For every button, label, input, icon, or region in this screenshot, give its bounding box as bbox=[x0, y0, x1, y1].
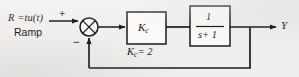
input-signal-type-label: Ramp bbox=[14, 27, 42, 38]
controller-caption-letter: K bbox=[127, 46, 134, 57]
plant-denominator: s+ 1 bbox=[198, 30, 217, 41]
controller-gain-subscript: c bbox=[145, 26, 149, 35]
plant-denominator-constant: + 1 bbox=[202, 29, 217, 40]
summing-junction-plus-sign: + bbox=[59, 8, 65, 19]
block-diagram-figure: R =tu(t) Ramp + − Kc Kc= 2 1 s+ 1 Y bbox=[0, 0, 299, 77]
input-signal-label: R =tu(t) bbox=[8, 13, 43, 24]
input-signal-argument: (t) bbox=[33, 12, 43, 23]
plant-numerator: 1 bbox=[206, 12, 211, 23]
input-signal-lhs: R = bbox=[8, 12, 24, 23]
summing-junction-minus-sign: − bbox=[73, 36, 80, 48]
controller-gain-caption: Kc= 2 bbox=[127, 47, 152, 58]
diagram-lines-layer bbox=[0, 0, 299, 77]
controller-gain-symbol: Kc bbox=[138, 22, 149, 35]
input-signal-expression: tu bbox=[24, 12, 32, 23]
output-signal-label: Y bbox=[281, 20, 287, 31]
controller-caption-value: = 2 bbox=[137, 46, 152, 57]
